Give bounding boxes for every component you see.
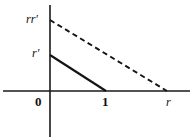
origin-label: 0	[35, 95, 42, 108]
solid-line-segment	[50, 55, 106, 91]
figure-container: rr′ r′ 0 1 r	[0, 0, 193, 139]
x-axis-label-one: 1	[102, 95, 109, 108]
x-axis-label-r: r	[166, 96, 171, 108]
y-axis-label-rr-prime: rr′	[26, 13, 38, 25]
y-axis-label-r-prime: r′	[32, 47, 39, 59]
dashed-line-segment	[50, 20, 167, 91]
